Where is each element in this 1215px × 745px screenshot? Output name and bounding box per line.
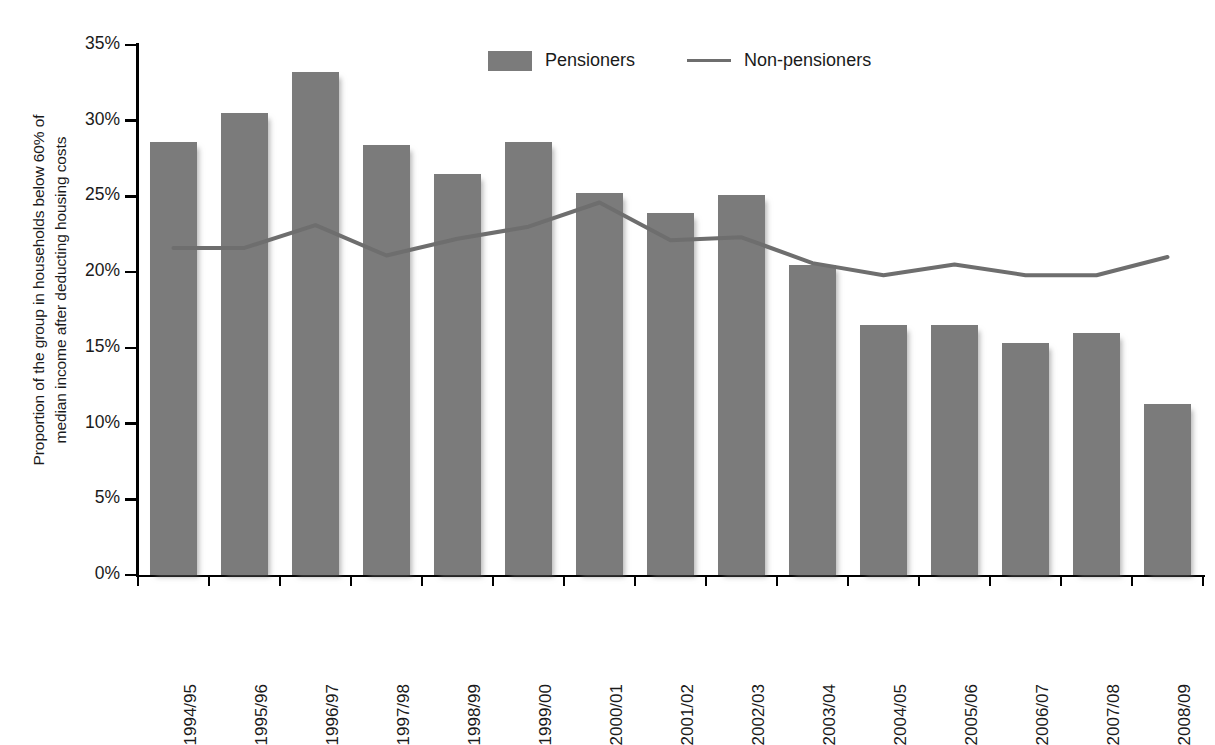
y-tick-label: 25%: [85, 184, 120, 205]
y-tick-35%: [125, 44, 136, 47]
legend-label-pensioners: Pensioners: [545, 50, 635, 71]
x-tick-label: 2007/08: [1104, 684, 1124, 745]
x-tick-label: 2000/01: [607, 684, 627, 745]
x-tick-label: 1995/96: [252, 684, 272, 745]
x-tick-label: 2006/07: [1033, 684, 1053, 745]
x-tick-label: 1994/95: [181, 684, 201, 745]
x-tick-label: 2002/03: [749, 684, 769, 745]
y-tick-25%: [125, 195, 136, 198]
x-axis-tick-labels: 1994/951995/961996/971997/981998/991999/…: [138, 580, 1203, 687]
y-tick-5%: [125, 498, 136, 501]
line-swatch-icon: [687, 59, 731, 63]
x-tick-label: 1999/00: [536, 684, 556, 745]
x-tick-label: 2004/05: [891, 684, 911, 745]
chart-legend: Pensioners Non-pensioners: [488, 50, 871, 71]
y-tick-label: 15%: [85, 336, 120, 357]
legend-label-non-pensioners: Non-pensioners: [744, 50, 871, 71]
bar-swatch-icon: [488, 51, 532, 71]
y-tick-label: 0%: [95, 563, 120, 584]
y-axis-tick-labels: 0%5%10%15%20%25%30%35%: [52, 0, 120, 687]
y-tick-20%: [125, 271, 136, 274]
y-tick-label: 10%: [85, 412, 120, 433]
plot-area: [138, 45, 1203, 575]
x-tick-label: 2005/06: [962, 684, 982, 745]
x-tick-label: 2008/09: [1175, 684, 1195, 745]
y-tick-15%: [125, 347, 136, 350]
x-tick-label: 1996/97: [323, 684, 343, 745]
x-tick-label: 2003/04: [820, 684, 840, 745]
line-path: [174, 203, 1168, 276]
y-tick-30%: [125, 119, 136, 122]
y-tick-10%: [125, 422, 136, 425]
y-tick-label: 30%: [85, 109, 120, 130]
legend-item-pensioners: Pensioners: [488, 50, 635, 71]
x-tick-label: 2001/02: [678, 684, 698, 745]
legend-item-non-pensioners: Non-pensioners: [687, 50, 871, 71]
y-tick-0%: [125, 574, 136, 577]
x-tick-label: 1998/99: [465, 684, 485, 745]
y-tick-label: 35%: [85, 33, 120, 54]
y-tick-label: 20%: [85, 260, 120, 281]
x-tick-label: 1997/98: [394, 684, 414, 745]
y-tick-label: 5%: [95, 487, 120, 508]
y-axis-title-line-1: Proportion of the group in households be…: [28, 115, 50, 466]
line-series-non-pensioners: [138, 45, 1203, 575]
